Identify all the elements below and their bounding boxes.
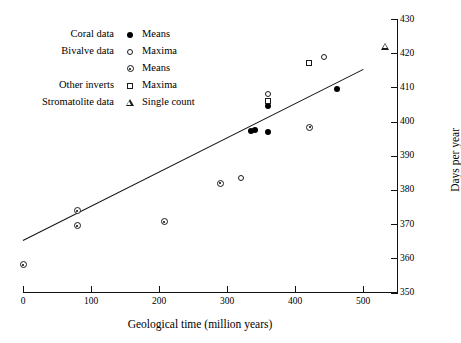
y-tick xyxy=(391,87,398,88)
data-point xyxy=(321,46,327,64)
y-tick-label: 350 xyxy=(400,288,414,298)
x-tick-label: 300 xyxy=(220,297,234,307)
x-tick xyxy=(295,286,296,293)
data-point xyxy=(334,78,340,96)
x-tick-label: 500 xyxy=(356,297,370,307)
x-tick-label: 400 xyxy=(288,297,302,307)
dotted-circle-icon xyxy=(306,124,313,131)
data-point xyxy=(74,215,81,233)
data-point xyxy=(306,52,312,70)
y-axis-label: Days per year xyxy=(449,128,461,192)
dotted-circle-icon xyxy=(20,261,27,268)
filled-circle-icon xyxy=(334,86,340,92)
open-circle-icon xyxy=(321,54,327,60)
y-tick-label: 390 xyxy=(400,151,414,161)
y-tick-label: 370 xyxy=(400,220,414,230)
data-point xyxy=(381,36,389,54)
y-tick-label: 400 xyxy=(400,117,414,127)
x-axis-label: Geological time (million years) xyxy=(0,318,400,330)
data-point xyxy=(238,167,244,185)
x-axis-line xyxy=(23,292,398,293)
y-tick xyxy=(391,156,398,157)
dotted-circle-icon xyxy=(74,222,81,229)
data-point xyxy=(161,211,168,229)
open-square-icon xyxy=(265,98,271,104)
x-tick xyxy=(159,286,160,293)
y-tick-label: 360 xyxy=(400,254,414,264)
y-tick-label: 410 xyxy=(400,83,414,93)
x-tick-label: 200 xyxy=(152,297,166,307)
x-tick xyxy=(23,286,24,293)
data-point xyxy=(265,90,271,108)
open-triangle-icon xyxy=(381,43,389,50)
x-tick xyxy=(91,286,92,293)
dotted-circle-icon xyxy=(217,180,224,187)
data-point xyxy=(306,117,313,135)
x-tick xyxy=(363,286,364,293)
data-point xyxy=(265,121,271,139)
y-tick-label: 430 xyxy=(400,15,414,25)
y-tick xyxy=(391,19,398,20)
data-point xyxy=(217,173,224,191)
x-tick-label: 100 xyxy=(84,297,98,307)
x-tick xyxy=(227,286,228,293)
y-tick xyxy=(391,53,398,54)
open-circle-icon xyxy=(238,175,244,181)
filled-circle-icon xyxy=(265,129,271,135)
open-square-icon xyxy=(306,60,312,66)
y-tick xyxy=(391,190,398,191)
data-point xyxy=(20,254,27,272)
y-tick-label: 420 xyxy=(400,49,414,59)
y-tick xyxy=(391,122,398,123)
y-tick xyxy=(391,293,398,294)
dotted-circle-icon xyxy=(161,218,168,225)
y-tick xyxy=(391,224,398,225)
y-tick xyxy=(391,258,398,259)
y-tick-label: 380 xyxy=(400,185,414,195)
dotted-circle-icon xyxy=(74,207,81,214)
filled-circle-icon xyxy=(252,127,258,133)
x-tick-label: 0 xyxy=(21,297,26,307)
data-point xyxy=(252,119,258,137)
